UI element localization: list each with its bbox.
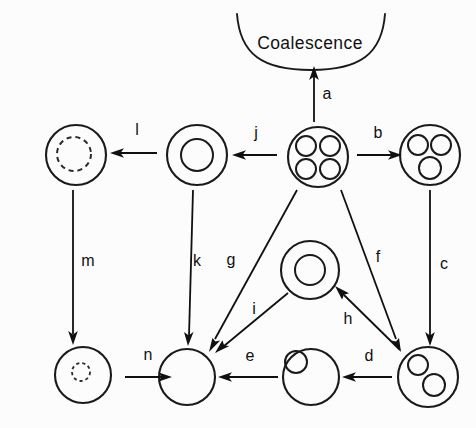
vesicle-membrane bbox=[400, 125, 460, 185]
inclusion bbox=[408, 355, 428, 375]
vesicle-membrane bbox=[167, 125, 227, 185]
node-vesicle-with-four-inclusions bbox=[288, 127, 348, 187]
arrow-label-l: l bbox=[135, 121, 139, 138]
dashed-inclusion bbox=[57, 137, 91, 171]
arrow-label-c: c bbox=[440, 255, 448, 272]
arrow-label-f: f bbox=[376, 248, 381, 265]
arrow-a: a bbox=[309, 66, 331, 122]
arrow-label-m: m bbox=[81, 252, 94, 269]
arrow-label-k: k bbox=[193, 252, 202, 269]
inclusion bbox=[423, 374, 445, 396]
node-vesicle-with-two-inclusions bbox=[398, 347, 458, 407]
coalescence-label: Coalescence bbox=[257, 33, 363, 53]
vesicle-membrane bbox=[288, 127, 348, 187]
vesicle-membrane bbox=[55, 347, 111, 403]
arrow-h: h bbox=[335, 286, 400, 350]
node-vesicle-with-small-dashed-inclusion bbox=[55, 347, 111, 403]
inclusion bbox=[419, 157, 441, 179]
arrow-shaft bbox=[224, 293, 288, 346]
arrow-k: k bbox=[184, 190, 202, 346]
arrow-m: m bbox=[68, 190, 94, 345]
node-vesicle-with-one-inclusion bbox=[283, 349, 339, 405]
cell-transformation-diagram: Coalescence bbox=[0, 0, 476, 428]
inclusion bbox=[408, 135, 428, 155]
inclusion bbox=[295, 255, 325, 285]
dashed-inclusion bbox=[72, 363, 90, 381]
arrow-g: g bbox=[209, 190, 297, 352]
arrow-e: e bbox=[218, 347, 278, 382]
inclusion bbox=[320, 136, 340, 156]
arrow-n: n bbox=[125, 346, 172, 382]
arrow-i: i bbox=[215, 293, 288, 353]
vesicle-membrane bbox=[283, 349, 339, 405]
inclusion bbox=[320, 159, 340, 179]
arrow-c: c bbox=[425, 190, 448, 346]
arrow-l: l bbox=[110, 121, 157, 158]
inclusion bbox=[296, 159, 316, 179]
arrow-label-j: j bbox=[253, 124, 258, 141]
vesicle-membrane bbox=[46, 125, 106, 185]
diagram-canvas: Coalescence bbox=[0, 0, 476, 428]
node-vesicle-with-large-dashed-inclusion bbox=[46, 125, 106, 185]
inclusion bbox=[296, 136, 316, 156]
arrow-label-e: e bbox=[246, 347, 255, 364]
arrow-label-h: h bbox=[344, 310, 353, 327]
arrow-f: f bbox=[341, 190, 401, 352]
arrow-j: j bbox=[232, 124, 277, 160]
arrow-label-d: d bbox=[365, 347, 374, 364]
arrow-label-i: i bbox=[252, 300, 256, 317]
arrow-label-g: g bbox=[227, 251, 236, 268]
inclusion bbox=[181, 139, 213, 171]
arrow-label-a: a bbox=[323, 85, 332, 102]
vesicle-membrane bbox=[281, 241, 339, 299]
node-vesicle-with-three-inclusions bbox=[400, 125, 460, 185]
arrow-label-n: n bbox=[144, 346, 153, 363]
node-vesicle-with-concentric-ring bbox=[167, 125, 227, 185]
arrow-label-b: b bbox=[374, 124, 383, 141]
inclusion bbox=[431, 135, 451, 155]
arrow-b: b bbox=[357, 124, 402, 160]
node-center-vesicle-with-concentric-ring bbox=[281, 241, 339, 299]
arrow-d: d bbox=[342, 347, 392, 382]
